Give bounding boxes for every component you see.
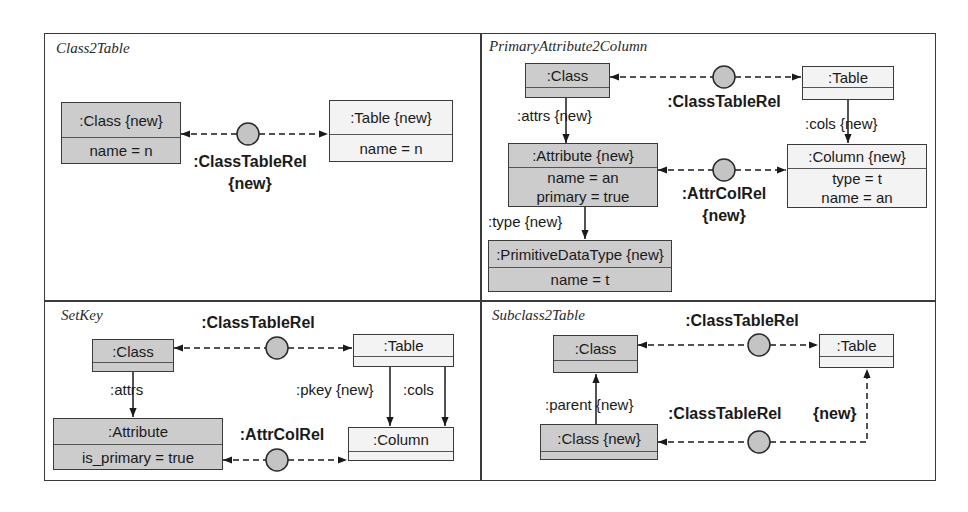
- node-attributes: is_primary = true: [54, 445, 222, 469]
- node-class[interactable]: :Class {new} name = n: [61, 102, 181, 164]
- node-attributes: [803, 88, 893, 99]
- node-column[interactable]: :Column {new} type = t name = an: [787, 144, 927, 208]
- node-attributes: name = n: [330, 135, 452, 161]
- node-header: :Column {new}: [788, 145, 926, 169]
- node-header: :Class: [93, 340, 173, 363]
- relation-label: :ClassTableRel: [668, 406, 800, 422]
- node-header: :Attribute: [54, 419, 222, 445]
- node-table[interactable]: :Table: [819, 334, 894, 368]
- node-attribute: is_primary = true: [82, 448, 194, 467]
- edge-label: :pkey {new}: [296, 382, 374, 397]
- node-column[interactable]: :Column: [348, 427, 454, 461]
- node-table[interactable]: :Table: [353, 334, 454, 367]
- panel-title: Subclass2Table: [492, 307, 585, 324]
- node-attribute: name = an: [547, 168, 618, 187]
- node-header: :Class {new}: [62, 103, 180, 138]
- node-attribute: name = t: [551, 270, 610, 289]
- node-class[interactable]: :Class: [553, 335, 638, 373]
- node-table[interactable]: :Table {new} name = n: [329, 100, 453, 162]
- edge-label: :cols: [403, 382, 434, 397]
- node-class[interactable]: :Class: [92, 339, 174, 372]
- node-attributes: name = n: [62, 138, 180, 163]
- relation-label: :AttrColRel: [232, 427, 332, 443]
- edge-label: :attrs {new}: [517, 108, 592, 123]
- relation-label: :ClassTableRel: [187, 154, 313, 170]
- node-header: :Class {new}: [541, 425, 657, 452]
- node-attributes: name = t: [489, 268, 671, 291]
- node-header: :Class: [554, 336, 637, 361]
- node-header: :Table: [820, 335, 893, 357]
- node-attribute: name = n: [90, 141, 153, 160]
- panel-title: Class2Table: [56, 40, 130, 57]
- edge-label: :attrs: [110, 382, 143, 397]
- node-table[interactable]: :Table: [802, 66, 894, 100]
- node-attribute: name = n: [360, 139, 423, 158]
- relation-modifier: {new}: [666, 208, 782, 224]
- node-attribute: type = t: [832, 169, 882, 188]
- node-header: :Column: [349, 428, 453, 452]
- relation-label: :ClassTableRel: [672, 313, 812, 329]
- node-header: :Class: [526, 64, 609, 88]
- node-header: :Attribute {new}: [509, 144, 657, 168]
- vertical-divider: [480, 33, 482, 481]
- node-attributes: [526, 88, 609, 97]
- node-subclass[interactable]: :Class {new}: [540, 424, 658, 460]
- node-attributes: [541, 452, 657, 459]
- node-attributes: [349, 452, 453, 460]
- node-class[interactable]: :Class: [525, 63, 610, 98]
- node-attribute[interactable]: :Attribute is_primary = true: [53, 418, 223, 470]
- panel-title: PrimaryAttribute2Column: [489, 38, 647, 55]
- node-header: :Table: [803, 67, 893, 88]
- relation-label: :ClassTableRel: [646, 94, 802, 110]
- node-attribute: name = an: [821, 188, 892, 207]
- edge-label: :type {new}: [488, 214, 562, 229]
- node-attributes: [354, 357, 453, 366]
- relation-modifier: {new}: [813, 406, 863, 422]
- node-attribute: primary = true: [537, 187, 630, 206]
- node-header: :Table: [354, 335, 453, 357]
- node-attributes: type = t name = an: [788, 169, 926, 207]
- panel-title: SetKey: [61, 307, 103, 324]
- node-attributes: [93, 363, 173, 371]
- node-header: :PrimitiveDataType {new}: [489, 241, 671, 268]
- edge-label: :cols {new}: [805, 116, 878, 131]
- relation-modifier: {new}: [187, 176, 313, 192]
- node-attributes: [820, 357, 893, 367]
- node-attribute[interactable]: :Attribute {new} name = an primary = tru…: [508, 143, 658, 207]
- node-header: :Table {new}: [330, 101, 452, 135]
- node-attributes: name = an primary = true: [509, 168, 657, 206]
- relation-label: :ClassTableRel: [188, 315, 328, 331]
- node-primitive-data-type[interactable]: :PrimitiveDataType {new} name = t: [488, 240, 672, 292]
- horizontal-divider: [44, 300, 936, 302]
- node-attributes: [554, 361, 637, 372]
- relation-label: :AttrColRel: [666, 186, 782, 202]
- edge-label: :parent {new}: [545, 397, 633, 412]
